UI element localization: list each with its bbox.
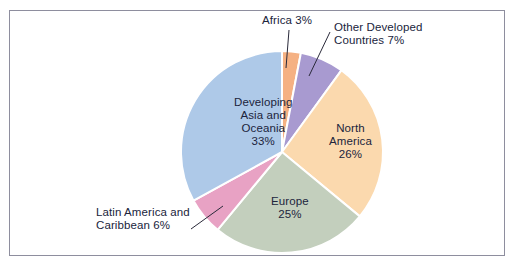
pie-slice-group xyxy=(181,51,383,253)
pie-chart-canvas xyxy=(0,0,514,264)
pie-chart-figure: Africa 3%Other Developed Countries 7%Nor… xyxy=(0,0,514,264)
